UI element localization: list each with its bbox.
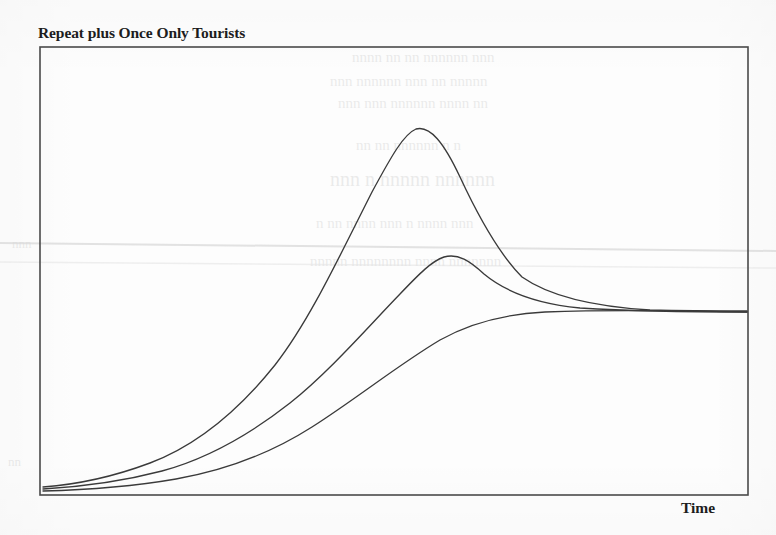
- series-line-medium-peak: [43, 256, 747, 489]
- svg-text:nnn n nnnnn nnnnnn: nnn n nnnnn nnnnnn: [330, 168, 495, 190]
- svg-text:nn: nn: [8, 454, 22, 469]
- bleed-through-artifact: nnnn nn nn nnnnnn nnn nnn nnnnnn nnn nn …: [8, 49, 502, 469]
- x-axis-label: Time: [681, 499, 715, 517]
- plot-area: nnnn nn nn nnnnnn nnn nnn nnnnnn nnn nn …: [0, 0, 776, 535]
- svg-text:nnnn nn nn nnnnnn nnn: nnnn nn nn nnnnnn nnn: [352, 49, 495, 65]
- svg-text:nnnnn nnnnnnnn nnnn nnnnnnn: nnnnn nnnnnnnn nnnn nnnnnnn: [310, 253, 502, 269]
- chart-figure: Repeat plus Once Only Tourists nnnn nn n…: [0, 0, 776, 535]
- chart-frame: [40, 47, 748, 495]
- svg-text:nnn nnnnnn nnn nn nnnnn: nnn nnnnnn nnn nn nnnnn: [330, 73, 488, 89]
- svg-text:n nn nnnn nnn n nnnn nnn: n nn nnnn nnn n nnnn nnn: [316, 215, 474, 231]
- svg-text:nnn nnn nnnnnn nnnn nn: nnn nnn nnnnnn nnnn nn: [338, 95, 489, 111]
